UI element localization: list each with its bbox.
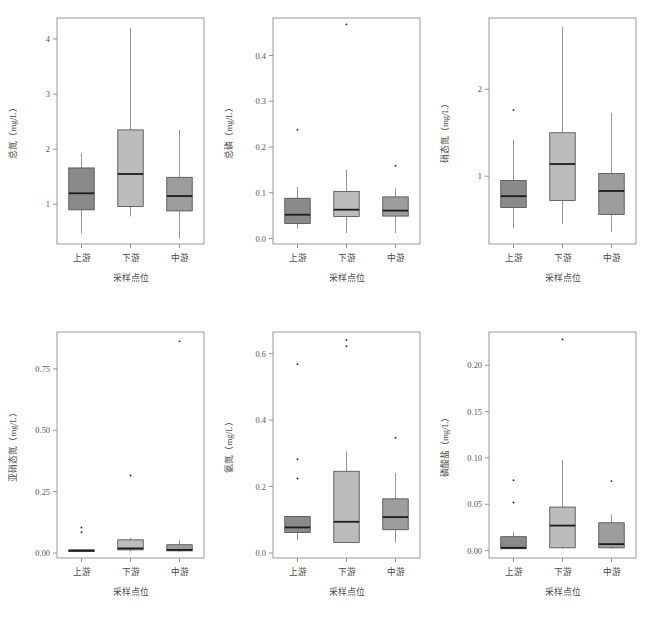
y-tick-label: 0.00 <box>35 549 50 558</box>
x-tick-label: 下游 <box>122 252 140 263</box>
x-tick-label: 下游 <box>554 566 572 577</box>
box-group: 上游 <box>285 129 310 263</box>
y-axis-title: 硝态氮（mg/L） <box>439 99 450 163</box>
panel-nitrate-nitrogen-svg: 12硝态氮（mg/L）上游下游中游采样点位 <box>432 0 648 314</box>
y-tick-label: 0.20 <box>467 361 482 370</box>
outlier-point <box>297 478 299 480</box>
y-tick-label: 0.4 <box>256 52 267 61</box>
panel-total-nitrogen: 1234总氮（mg/L）上游下游中游采样点位 <box>0 0 216 314</box>
outlier-point <box>346 345 348 347</box>
plot-frame <box>57 332 204 558</box>
panel-phosphate-svg: 0.000.050.100.150.20磷酸盐（mg/L）上游下游中游采样点位 <box>432 314 648 628</box>
box-rect <box>285 198 310 223</box>
outlier-point <box>179 340 181 342</box>
outlier-point <box>346 339 348 341</box>
box-group: 中游 <box>167 130 192 263</box>
y-axis-title: 总磷（mg/L） <box>223 103 234 158</box>
box-group: 中游 <box>383 437 408 577</box>
y-tick-label: 0.05 <box>467 500 482 509</box>
y-tick-label: 1 <box>46 200 50 209</box>
panel-nitrate-nitrogen: 12硝态氮（mg/L）上游下游中游采样点位 <box>432 0 648 314</box>
panel-total-phosphorus-svg: 0.00.10.20.30.4总磷（mg/L）上游下游中游采样点位 <box>216 0 432 314</box>
outlier-point <box>81 531 83 533</box>
box-rect <box>550 133 575 201</box>
x-tick-label: 上游 <box>289 252 307 263</box>
x-tick-label: 中游 <box>603 566 621 577</box>
x-tick-label: 下游 <box>338 252 356 263</box>
x-tick-label: 下游 <box>338 566 356 577</box>
outlier-point <box>513 109 515 111</box>
y-tick-label: 0.10 <box>467 454 482 463</box>
box-rect <box>334 191 359 216</box>
box-rect <box>285 516 310 532</box>
x-axis-title: 采样点位 <box>329 272 365 283</box>
x-axis-title: 采样点位 <box>545 272 581 283</box>
box-rect <box>383 197 408 216</box>
box-group: 下游 <box>118 28 143 263</box>
y-tick-label: 0.2 <box>256 143 266 152</box>
box-group: 上游 <box>501 479 526 577</box>
box-rect <box>501 181 526 208</box>
y-axis-title: 亚硝态氮（mg/L） <box>7 408 18 481</box>
box-group: 下游 <box>118 475 143 577</box>
box-group: 中游 <box>167 340 192 577</box>
y-tick-label: 0.1 <box>256 189 266 198</box>
box-group: 中游 <box>599 480 624 577</box>
outlier-point <box>297 129 299 131</box>
box-group: 下游 <box>334 339 359 577</box>
box-rect <box>167 177 192 211</box>
y-tick-label: 0.2 <box>256 483 266 492</box>
outlier-point <box>562 338 564 340</box>
box-group: 下游 <box>334 23 359 263</box>
box-group: 上游 <box>69 527 94 577</box>
boxplot-figure-grid: 1234总氮（mg/L）上游下游中游采样点位 0.00.10.20.30.4总磷… <box>0 0 648 628</box>
box-group: 中游 <box>599 113 624 263</box>
box-group: 中游 <box>383 165 408 263</box>
box-group: 上游 <box>69 153 94 263</box>
x-tick-label: 上游 <box>505 252 523 263</box>
x-tick-label: 下游 <box>554 252 572 263</box>
outlier-point <box>513 501 515 503</box>
panel-total-phosphorus: 0.00.10.20.30.4总磷（mg/L）上游下游中游采样点位 <box>216 0 432 314</box>
y-axis-title: 磷酸盐（mg/L） <box>439 413 450 477</box>
y-tick-label: 0.75 <box>35 365 50 374</box>
outlier-point <box>297 458 299 460</box>
y-tick-label: 4 <box>46 35 51 44</box>
box-rect <box>550 507 575 548</box>
box-rect <box>69 168 94 210</box>
outlier-point <box>297 363 299 365</box>
box-rect <box>118 130 143 207</box>
x-tick-label: 中游 <box>603 252 621 263</box>
y-tick-label: 0.25 <box>35 488 50 497</box>
box-group: 上游 <box>501 109 526 263</box>
x-tick-label: 上游 <box>73 252 91 263</box>
x-tick-label: 上游 <box>73 566 91 577</box>
y-tick-label: 0.50 <box>35 426 50 435</box>
panel-nitrite-nitrogen-svg: 0.000.250.500.75亚硝态氮（mg/L）上游下游中游采样点位 <box>0 314 216 628</box>
x-tick-label: 中游 <box>171 252 189 263</box>
y-axis-title: 总氮（mg/L） <box>7 103 18 158</box>
y-tick-label: 0.00 <box>467 547 482 556</box>
box-group: 上游 <box>285 363 310 577</box>
outlier-point <box>395 437 397 439</box>
y-tick-label: 0.6 <box>256 350 266 359</box>
panel-total-nitrogen-svg: 1234总氮（mg/L）上游下游中游采样点位 <box>0 0 216 314</box>
panel-ammonia-nitrogen-svg: 0.00.20.40.6氨氮（mg/L）上游下游中游采样点位 <box>216 314 432 628</box>
x-tick-label: 下游 <box>122 566 140 577</box>
x-tick-label: 中游 <box>387 566 405 577</box>
box-group: 下游 <box>550 27 575 263</box>
x-axis-title: 采样点位 <box>545 586 581 597</box>
box-rect <box>334 471 359 542</box>
x-axis-title: 采样点位 <box>113 586 149 597</box>
panel-ammonia-nitrogen: 0.00.20.40.6氨氮（mg/L）上游下游中游采样点位 <box>216 314 432 628</box>
panel-nitrite-nitrogen: 0.000.250.500.75亚硝态氮（mg/L）上游下游中游采样点位 <box>0 314 216 628</box>
y-tick-label: 0.4 <box>256 416 267 425</box>
x-tick-label: 上游 <box>505 566 523 577</box>
x-tick-label: 中游 <box>171 566 189 577</box>
box-rect <box>599 174 624 215</box>
outlier-point <box>346 23 348 25</box>
y-tick-label: 0.0 <box>256 549 266 558</box>
x-axis-title: 采样点位 <box>113 272 149 283</box>
x-tick-label: 中游 <box>387 252 405 263</box>
y-tick-label: 0.3 <box>256 97 266 106</box>
